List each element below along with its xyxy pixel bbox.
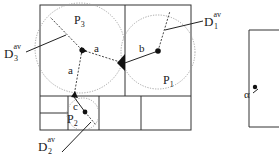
- radius-p3-to-triangle: [82, 50, 120, 62]
- label-distance-c: c: [73, 100, 78, 112]
- leader-d1: [165, 21, 203, 30]
- label-d3av: Dav: [4, 42, 21, 61]
- diagram-canvas: P3 P1 P2 Dav 3 Dav 1 Dav 2 a a b c α: [0, 0, 279, 156]
- right-box: [249, 30, 279, 127]
- radius-p1-up: [158, 11, 170, 51]
- label-d1av: Dav: [204, 10, 221, 29]
- label-distance-a1: a: [94, 42, 99, 54]
- triangle-junction: [117, 54, 125, 71]
- floorplan-grid: [40, 5, 191, 130]
- leader-d3: [26, 35, 66, 52]
- center-dot-p2: [83, 110, 88, 115]
- leader-alpha: [253, 89, 258, 93]
- label-p3: P3: [74, 13, 85, 29]
- label-d1av-sub: 1: [214, 22, 218, 31]
- connector-lines: [26, 21, 258, 152]
- label-d2av: Dav: [38, 135, 55, 154]
- outer-boundary: [40, 5, 191, 130]
- label-p1: P1: [163, 73, 174, 89]
- label-distance-b: b: [139, 42, 145, 54]
- coverage-circles: [35, 3, 195, 130]
- wedge-p3: [81, 47, 87, 54]
- label-p2: P2: [67, 112, 78, 128]
- center-dot-p1: [155, 48, 161, 54]
- labels: P3 P1 P2 Dav 3 Dav 1 Dav 2 a a b c α: [4, 10, 250, 156]
- radius-p3-down: [74, 50, 82, 96]
- label-d3av-sub: 3: [14, 54, 18, 63]
- dot-right-box: [253, 85, 257, 89]
- label-distance-a2: a: [68, 64, 73, 76]
- label-d2av-sub: 2: [48, 147, 52, 156]
